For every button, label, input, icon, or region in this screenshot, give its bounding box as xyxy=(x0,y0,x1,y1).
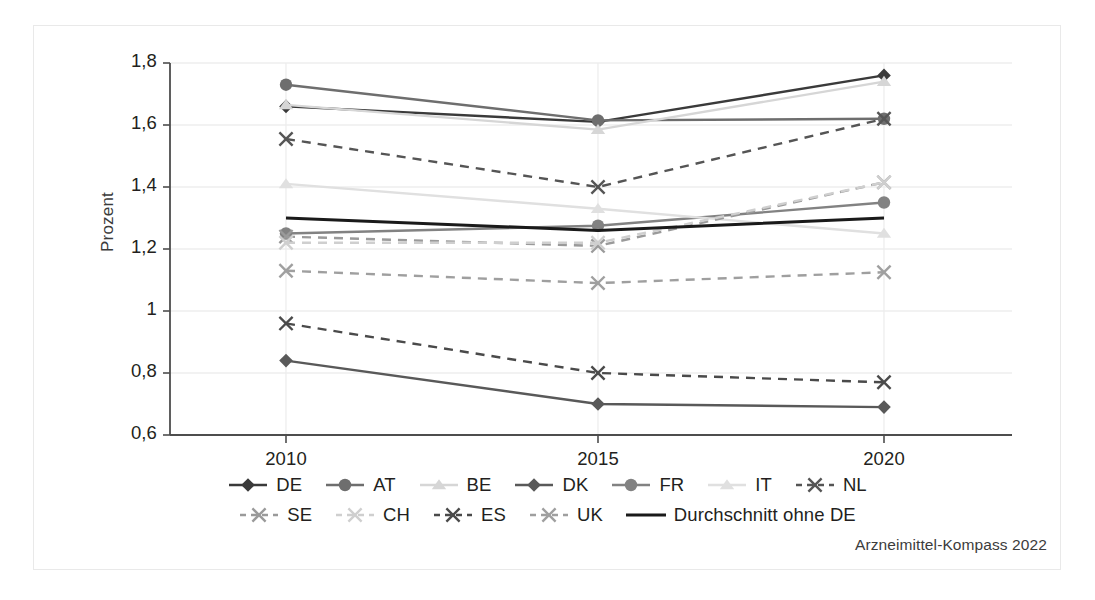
legend-marker xyxy=(339,479,351,491)
legend-row: SECHESUKDurchschnitt ohne DE xyxy=(33,500,1061,530)
legend-marker xyxy=(241,478,255,492)
data-point xyxy=(279,354,293,368)
y-tick-label: 1 xyxy=(101,298,157,320)
legend-item-be[interactable]: BE xyxy=(418,474,492,496)
legend-item-label: ES xyxy=(481,504,506,526)
y-tick-label: 1,6 xyxy=(101,112,157,134)
data-point xyxy=(591,397,605,411)
series-line xyxy=(286,75,884,122)
legend-marker xyxy=(625,479,637,491)
legend-item-es[interactable]: ES xyxy=(432,504,506,526)
legend-swatch-be xyxy=(418,476,460,494)
legend-swatch-es xyxy=(432,506,474,524)
legend-swatch-de xyxy=(227,476,269,494)
legend-item-label: FR xyxy=(659,474,684,496)
legend-item-label: BE xyxy=(467,474,492,496)
data-point xyxy=(878,196,890,208)
y-tick-label: 1,4 xyxy=(101,174,157,196)
legend-item-label: CH xyxy=(383,504,410,526)
legend-swatch-se xyxy=(238,506,280,524)
x-tick-label: 2020 xyxy=(839,448,929,470)
data-point xyxy=(280,79,292,91)
legend-swatch-at xyxy=(324,476,366,494)
legend-marker xyxy=(528,478,542,492)
legend-item-at[interactable]: AT xyxy=(324,474,395,496)
legend-swatch-ch xyxy=(334,506,376,524)
legend-item-dk[interactable]: DK xyxy=(513,474,588,496)
chart-legend: DEATBEDKFRITNL SECHESUKDurchschnitt ohne… xyxy=(33,470,1061,530)
legend-item-nl[interactable]: NL xyxy=(794,474,867,496)
legend-swatch-fr xyxy=(610,476,652,494)
legend-item-label: Durchschnitt ohne DE xyxy=(674,504,856,526)
y-tick-label: 1,2 xyxy=(101,236,157,258)
legend-swatch-durchschnitt xyxy=(625,506,667,524)
legend-item-label: DE xyxy=(276,474,302,496)
series-es xyxy=(279,317,890,389)
series-at xyxy=(280,79,890,127)
y-tick-label: 1,8 xyxy=(101,50,157,72)
legend-item-label: AT xyxy=(373,474,395,496)
legend-item-fr[interactable]: FR xyxy=(610,474,684,496)
series-dk xyxy=(279,354,891,414)
legend-item-ch[interactable]: CH xyxy=(334,504,410,526)
series-durchschnitt xyxy=(286,218,884,230)
legend-item-durchschnitt[interactable]: Durchschnitt ohne DE xyxy=(625,504,856,526)
legend-item-label: NL xyxy=(843,474,867,496)
y-tick-label: 0,8 xyxy=(101,360,157,382)
legend-item-label: DK xyxy=(562,474,588,496)
legend-swatch-dk xyxy=(513,476,555,494)
legend-swatch-uk xyxy=(528,506,570,524)
chart-figure: Prozent 0,60,811,21,41,61,8 201020152020… xyxy=(0,0,1095,600)
legend-item-uk[interactable]: UK xyxy=(528,504,603,526)
legend-item-label: IT xyxy=(755,474,772,496)
y-tick-label: 0,6 xyxy=(101,422,157,444)
legend-item-se[interactable]: SE xyxy=(238,504,312,526)
x-tick-label: 2015 xyxy=(553,448,643,470)
data-point xyxy=(877,400,891,414)
x-tick-label: 2010 xyxy=(241,448,331,470)
legend-swatch-it xyxy=(706,476,748,494)
series-fr xyxy=(280,196,890,239)
source-note: Arzneimittel-Kompass 2022 xyxy=(855,536,1047,554)
series-group xyxy=(279,69,891,414)
legend-item-label: SE xyxy=(287,504,312,526)
legend-item-de[interactable]: DE xyxy=(227,474,302,496)
series-line xyxy=(286,218,884,230)
series-line xyxy=(286,361,884,408)
legend-swatch-nl xyxy=(794,476,836,494)
series-ch xyxy=(279,264,890,290)
legend-row: DEATBEDKFRITNL xyxy=(33,470,1061,500)
legend-item-label: UK xyxy=(577,504,603,526)
series-line xyxy=(286,271,884,283)
legend-item-it[interactable]: IT xyxy=(706,474,772,496)
